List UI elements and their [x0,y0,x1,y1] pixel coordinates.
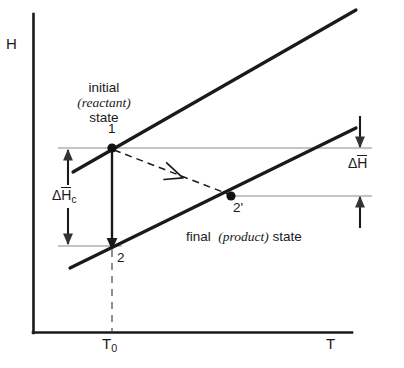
adiabatic-arrowhead [162,161,183,180]
initial-state-label: initial (reactant) state [58,80,150,125]
x-axis-label: T [326,336,335,353]
state-point-2-label: 2 [117,250,125,265]
final-state-part3: state [273,229,302,244]
initial-state-line2: (reactant) [58,95,150,110]
adiabatic-reaction-dashed-arrow [114,150,228,194]
delta-h-h: H [357,155,367,170]
x-axis-tick-label-t0: T0 [102,336,117,354]
t0-base: T [102,335,111,352]
delta-h-label: ΔH [348,155,367,172]
state-point-1-label: 1 [108,121,116,136]
initial-state-line1: initial [58,80,150,95]
y-axis-label: H [6,36,17,53]
delta-hc-h: H [61,187,71,202]
delta-hc-label: ΔHc [52,187,77,205]
t0-subscript: 0 [111,342,117,354]
delta-h-delta: Δ [348,155,357,171]
delta-hc-delta: Δ [52,187,61,203]
enthalpy-temperature-diagram: H T T0 initial (reactant) state final (p… [0,0,404,368]
state-point-1-dot [107,143,116,152]
axes-group [33,14,352,333]
initial-state-line3: state [58,110,150,125]
final-state-label: final (product) state [186,229,302,244]
final-state-part2: (product) [218,229,269,244]
final-state-part1: final [186,229,211,244]
state-point-2prime-label: 2' [233,200,243,215]
diagram-canvas [0,0,404,368]
delta-hc-subscript: c [71,194,76,205]
